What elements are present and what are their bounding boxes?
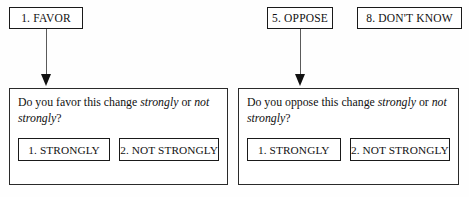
arrow-head [295, 74, 305, 86]
question-part-3: ? [285, 111, 290, 125]
arrow-shaft [46, 29, 47, 75]
followup-panel-favor: Do you favor this change strongly or not… [9, 88, 228, 185]
option-box-favor[interactable]: 1. FAVOR [9, 7, 83, 29]
arrow-shaft [300, 29, 301, 75]
question-emphasis-1: strongly [140, 95, 178, 109]
answer-box-favor-not-strongly[interactable]: 2. NOT STRONGLY [119, 138, 219, 161]
answer-box-favor-strongly[interactable]: 1. STRONGLY [18, 138, 110, 161]
down-arrow-icon-favor [40, 29, 52, 86]
answer-label-favor-not-strongly: 2. NOT STRONGLY [120, 144, 218, 156]
flowchart-canvas: 1. FAVOR 5. OPPOSE 8. DON'T KNOW Do you … [0, 0, 469, 197]
answer-box-oppose-strongly[interactable]: 1. STRONGLY [247, 138, 341, 161]
arrow-head [41, 74, 51, 86]
option-label-dont-know: 8. DON'T KNOW [366, 12, 453, 24]
option-box-dont-know[interactable]: 8. DON'T KNOW [357, 7, 462, 29]
answer-label-oppose-strongly: 1. STRONGLY [258, 144, 330, 156]
option-label-favor: 1. FAVOR [21, 12, 71, 24]
question-text-favor: Do you favor this change strongly or not… [18, 95, 219, 126]
question-text-oppose: Do you oppose this change strongly or no… [247, 95, 450, 126]
question-part-2: or [416, 95, 432, 109]
question-part-3: ? [56, 111, 61, 125]
answer-label-oppose-not-strongly: 2. NOT STRONGLY [351, 144, 449, 156]
down-arrow-icon-oppose [294, 29, 306, 86]
question-part-2: or [178, 95, 194, 109]
answer-box-oppose-not-strongly[interactable]: 2. NOT STRONGLY [350, 138, 450, 161]
question-part-1: Do you oppose this change [247, 95, 378, 109]
answer-group-oppose: 1. STRONGLY 2. NOT STRONGLY [247, 138, 450, 161]
option-label-oppose: 5. OPPOSE [272, 12, 328, 24]
question-emphasis-1: strongly [378, 95, 416, 109]
question-part-1: Do you favor this change [18, 95, 140, 109]
followup-panel-oppose: Do you oppose this change strongly or no… [238, 88, 459, 185]
answer-label-favor-strongly: 1. STRONGLY [28, 144, 100, 156]
answer-group-favor: 1. STRONGLY 2. NOT STRONGLY [18, 138, 219, 161]
option-box-oppose[interactable]: 5. OPPOSE [267, 7, 333, 29]
